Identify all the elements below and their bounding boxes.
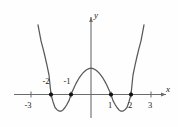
x-axis-label: x — [165, 84, 170, 94]
root-point-pos1 — [109, 92, 113, 96]
root-point-pos2 — [129, 92, 133, 96]
x-tick-label-pos2: 2 — [128, 100, 132, 110]
graph-figure: y x -3 -2 -1 1 2 3 — [0, 0, 178, 127]
root-point-neg1 — [69, 92, 73, 96]
x-tick-label-pos3: 3 — [148, 100, 152, 110]
root-point-neg2 — [49, 92, 53, 96]
x-tick-label-neg1: -1 — [63, 76, 70, 86]
x-tick-label-neg3: -3 — [24, 100, 31, 110]
y-axis-arrow-icon — [89, 17, 93, 22]
x-tick-label-neg2: -2 — [42, 76, 49, 86]
x-tick-label-pos1: 1 — [108, 100, 112, 110]
y-axis-label: y — [93, 10, 98, 20]
coordinate-plot: y x -3 -2 -1 1 2 3 — [0, 0, 178, 127]
